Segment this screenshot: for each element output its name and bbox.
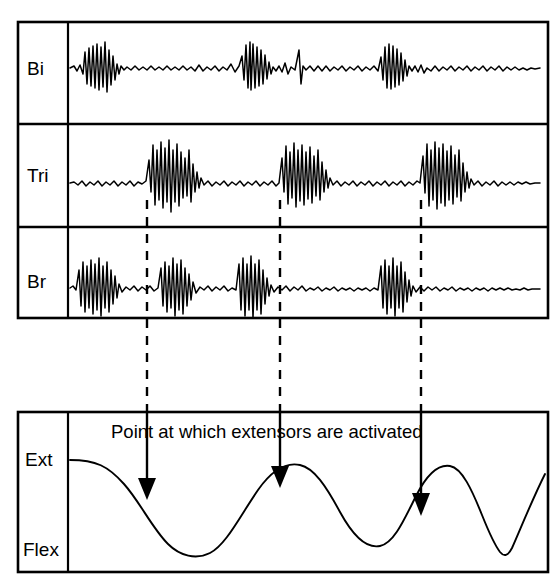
emg-trace-br [70, 256, 540, 318]
extensor-activation-caption: Point at which extensors are activated [111, 421, 423, 442]
emg-trace-bi [70, 42, 540, 92]
joint-angle-trace [70, 460, 545, 556]
figure-canvas: Bi Tri Br Ext Flex Point at which extens… [0, 0, 559, 586]
joint-angle-label-flex: Flex [23, 539, 59, 560]
extensor-arrow-head-1 [138, 478, 156, 500]
emg-row-label-br: Br [27, 271, 47, 292]
emg-row-label-tri: Tri [27, 165, 48, 186]
emg-figure: Bi Tri Br Ext Flex Point at which extens… [0, 0, 559, 586]
emg-row-label-bi: Bi [27, 58, 44, 79]
extensor-arrow-head-3 [412, 493, 430, 516]
joint-angle-label-ext: Ext [25, 449, 53, 470]
extensor-arrow-head-2 [271, 466, 289, 488]
emg-block: Bi Tri Br [18, 22, 548, 318]
joint-angle-block: Ext Flex Point at which extensors are ac… [18, 412, 548, 572]
emg-trace-tri [70, 140, 540, 212]
event-marker-links [147, 200, 421, 412]
